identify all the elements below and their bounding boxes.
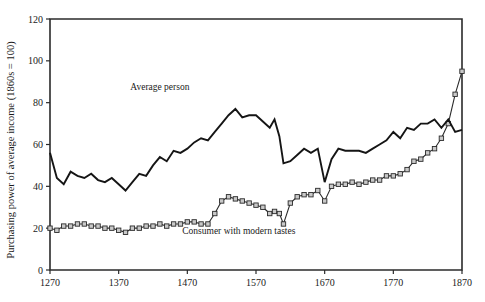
y-tick-label: 0 <box>38 265 43 276</box>
data-point-marker <box>357 182 361 186</box>
series-annotation-label: Average person <box>130 82 189 92</box>
series-line-consumer-modern-tastes <box>50 71 462 232</box>
data-point-marker <box>247 201 251 205</box>
data-point-marker <box>130 226 134 230</box>
data-point-marker <box>75 222 79 226</box>
data-point-marker <box>261 205 265 209</box>
data-point-marker <box>233 197 237 201</box>
data-point-marker <box>213 211 217 215</box>
series-markers-consumer-modern-tastes <box>48 69 464 234</box>
data-point-marker <box>460 69 464 73</box>
data-point-marker <box>226 195 230 199</box>
data-point-marker <box>453 92 457 96</box>
data-point-marker <box>336 182 340 186</box>
data-point-marker <box>268 211 272 215</box>
x-tick-label: 1670 <box>315 277 335 288</box>
data-point-marker <box>412 159 416 163</box>
data-point-marker <box>316 188 320 192</box>
y-tick-label: 40 <box>33 181 43 192</box>
y-tick-label: 120 <box>28 14 43 25</box>
data-point-marker <box>158 222 162 226</box>
data-point-marker <box>110 226 114 230</box>
data-point-marker <box>302 193 306 197</box>
x-tick-label: 1770 <box>383 277 403 288</box>
data-point-marker <box>219 199 223 203</box>
x-tick-label: 1270 <box>40 277 60 288</box>
data-point-marker <box>272 209 276 213</box>
data-point-marker <box>55 228 59 232</box>
y-axis-ticks: 020406080100120 <box>28 14 50 276</box>
data-point-marker <box>425 151 429 155</box>
data-point-marker <box>192 220 196 224</box>
series-line-average-person <box>50 109 462 191</box>
data-point-marker <box>384 174 388 178</box>
purchasing-power-line-chart: Purchasing power of average income (1860… <box>0 0 485 302</box>
data-point-marker <box>89 224 93 228</box>
data-point-marker <box>364 180 368 184</box>
data-point-marker <box>144 224 148 228</box>
data-point-marker <box>171 222 175 226</box>
data-point-marker <box>68 224 72 228</box>
data-point-marker <box>82 222 86 226</box>
x-axis-ticks: 1270137014701570167017701870 <box>40 270 472 288</box>
data-point-marker <box>295 195 299 199</box>
series-annotation-label: Consumer with modern tastes <box>182 226 295 236</box>
x-tick-label: 1470 <box>177 277 197 288</box>
data-point-marker <box>277 211 281 215</box>
data-point-marker <box>350 180 354 184</box>
y-axis-title: Purchasing power of average income (1860… <box>5 41 17 259</box>
y-tick-label: 20 <box>33 223 43 234</box>
y-tick-label: 80 <box>33 97 43 108</box>
data-point-marker <box>391 174 395 178</box>
y-axis-title-text: Purchasing power of average income (1860… <box>5 41 17 259</box>
data-point-marker <box>309 193 313 197</box>
x-tick-label: 1570 <box>246 277 266 288</box>
data-point-marker <box>432 146 436 150</box>
data-point-marker <box>116 228 120 232</box>
data-point-marker <box>62 224 66 228</box>
data-point-marker <box>165 224 169 228</box>
y-tick-label: 60 <box>33 139 43 150</box>
data-point-marker <box>123 230 127 234</box>
data-point-marker <box>103 226 107 230</box>
chart-container: Purchasing power of average income (1860… <box>0 0 485 302</box>
x-tick-label: 1370 <box>109 277 129 288</box>
x-tick-label: 1870 <box>452 277 472 288</box>
plot-area <box>48 69 464 234</box>
data-point-marker <box>329 184 333 188</box>
y-tick-label: 100 <box>28 55 43 66</box>
data-point-marker <box>151 224 155 228</box>
data-point-marker <box>137 226 141 230</box>
data-point-marker <box>343 182 347 186</box>
data-point-marker <box>240 199 244 203</box>
data-point-marker <box>377 178 381 182</box>
data-point-marker <box>48 226 52 230</box>
data-point-marker <box>254 203 258 207</box>
data-point-marker <box>439 136 443 140</box>
data-point-marker <box>96 224 100 228</box>
data-point-marker <box>185 220 189 224</box>
data-point-marker <box>322 199 326 203</box>
data-point-marker <box>405 167 409 171</box>
data-point-marker <box>398 172 402 176</box>
data-point-marker <box>419 157 423 161</box>
data-point-marker <box>371 178 375 182</box>
data-point-marker <box>288 201 292 205</box>
